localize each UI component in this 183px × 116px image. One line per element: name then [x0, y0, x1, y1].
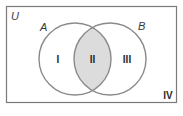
set-a-label: A	[39, 21, 47, 33]
universe-label: U	[11, 10, 19, 22]
region-ii-label: II	[90, 54, 96, 65]
region-i-label: I	[57, 54, 60, 65]
set-b-label: B	[138, 20, 145, 32]
venn-diagram: U A B I II III IV	[0, 0, 183, 116]
region-iv-label: IV	[163, 90, 173, 101]
region-iii-label: III	[123, 54, 132, 65]
